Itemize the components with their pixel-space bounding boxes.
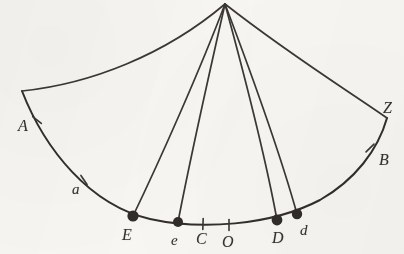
ray-apex-to-e (178, 4, 225, 222)
label-a: a (72, 182, 80, 197)
point-marker-d (292, 209, 302, 219)
label-Z: Z (383, 100, 392, 116)
label-C: C (196, 231, 207, 247)
label-B: B (379, 152, 389, 168)
label-e: e (171, 233, 178, 248)
geometric-figure-container: AaEeCODdBZ (0, 0, 404, 254)
label-E: E (122, 227, 132, 243)
tick-marks-group (33, 117, 374, 231)
label-d: d (300, 223, 308, 238)
point-marker-e (173, 217, 183, 227)
label-D: D (272, 230, 284, 246)
label-A: A (18, 118, 28, 134)
ray-apex-to-d (225, 4, 297, 214)
figure-canvas (0, 0, 404, 254)
point-marker-E (127, 210, 138, 221)
main-arc (22, 91, 387, 225)
point-marker-D (272, 215, 283, 226)
outer-arc-right (225, 4, 387, 118)
label-O: O (222, 234, 234, 250)
ray-apex-to-E (133, 4, 225, 216)
